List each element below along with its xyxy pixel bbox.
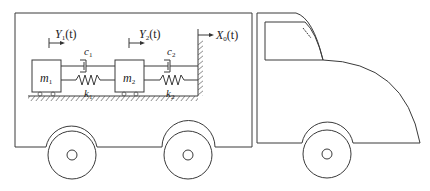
label-c1: c1 — [84, 45, 93, 59]
wiper-icon — [303, 28, 311, 38]
truck-vibration-diagram: m1 m2 c1 k1 c2 k2 Y1(t) — [0, 0, 430, 191]
rear-wheel-1 — [46, 126, 97, 179]
displacement-y2: Y2(t) — [129, 27, 161, 48]
rear-wheel-2 — [162, 121, 215, 179]
label-k2: k2 — [166, 87, 175, 101]
mass-m2: m2 — [115, 60, 144, 96]
label-x0: X0(t) — [215, 28, 238, 43]
damper-c2: c2 — [144, 45, 198, 72]
damper-c1: c1 — [61, 45, 115, 72]
label-m2: m2 — [123, 71, 136, 86]
truck-cab — [257, 13, 420, 143]
mass-m1: m1 — [32, 60, 61, 96]
label-m1: m1 — [40, 71, 53, 86]
displacement-y1: Y1(t) — [49, 27, 77, 48]
label-y2: Y2(t) — [139, 27, 161, 42]
label-y1: Y1(t) — [55, 27, 77, 42]
fixed-wall — [198, 40, 203, 96]
label-c2: c2 — [167, 45, 176, 59]
front-wheel — [303, 130, 351, 178]
windshield — [265, 22, 323, 60]
label-k1: k1 — [84, 87, 93, 101]
displacement-x0: X0(t) — [198, 28, 238, 43]
